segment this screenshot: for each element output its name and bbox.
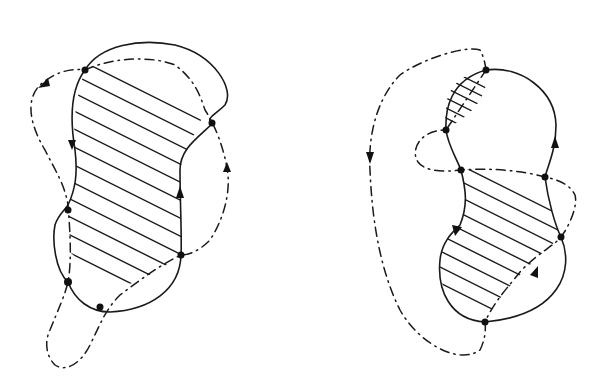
left-node-left-lower (64, 278, 72, 286)
right-node-top (483, 67, 490, 74)
left-node-top (82, 67, 89, 74)
right-hatch-region-top (430, 60, 500, 155)
right-solid-curve (440, 69, 566, 322)
right-node-left-upper (443, 127, 450, 134)
right-arrow-solid-left-down-icon (452, 225, 462, 236)
right-arrow-dashdot-outer-down-icon (366, 152, 374, 164)
left-arrow-dashdot-top-left-icon (38, 78, 50, 88)
left-figure (31, 40, 231, 368)
right-arrow-solid-right-up-icon (551, 136, 559, 148)
right-node-right-lower (558, 234, 565, 241)
left-node-right-upper (209, 120, 216, 127)
left-node-left-middle (65, 207, 72, 214)
left-arrow-dashdot-right-up-icon (223, 162, 231, 172)
diagram-canvas (0, 0, 601, 389)
left-node-bottom (97, 304, 104, 311)
right-arrow-dashdot-inner-up-icon (530, 266, 538, 278)
left-solid-curve (54, 42, 228, 312)
left-node-right-lower (178, 252, 185, 259)
right-dashdot-curve (370, 49, 576, 355)
right-node-right-middle (542, 174, 549, 181)
left-arrow-solid-right-up-icon (176, 186, 184, 198)
right-figure (366, 49, 580, 355)
left-hatch-region (40, 40, 220, 346)
right-node-left-middle (458, 167, 465, 174)
right-node-bottom (482, 319, 489, 326)
